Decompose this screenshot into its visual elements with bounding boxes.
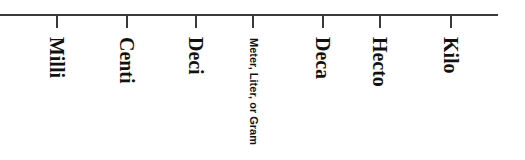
label-centi: Centi — [116, 37, 138, 84]
label-deca: Deca — [312, 37, 334, 79]
tick-deca — [322, 15, 324, 28]
label-hecto: Hecto — [369, 37, 391, 87]
tick-centi — [126, 15, 128, 28]
tick-kilo — [450, 15, 452, 28]
axis-line — [0, 14, 498, 16]
label-kilo: Kilo — [440, 37, 462, 74]
label-deci: Deci — [185, 37, 207, 75]
tick-hecto — [379, 15, 381, 28]
tick-base-unit — [252, 15, 254, 28]
tick-deci — [195, 15, 197, 28]
label-base-unit: Meter, Liter, or Gram — [248, 38, 260, 145]
tick-milli — [56, 15, 58, 28]
label-milli: Milli — [46, 37, 68, 78]
